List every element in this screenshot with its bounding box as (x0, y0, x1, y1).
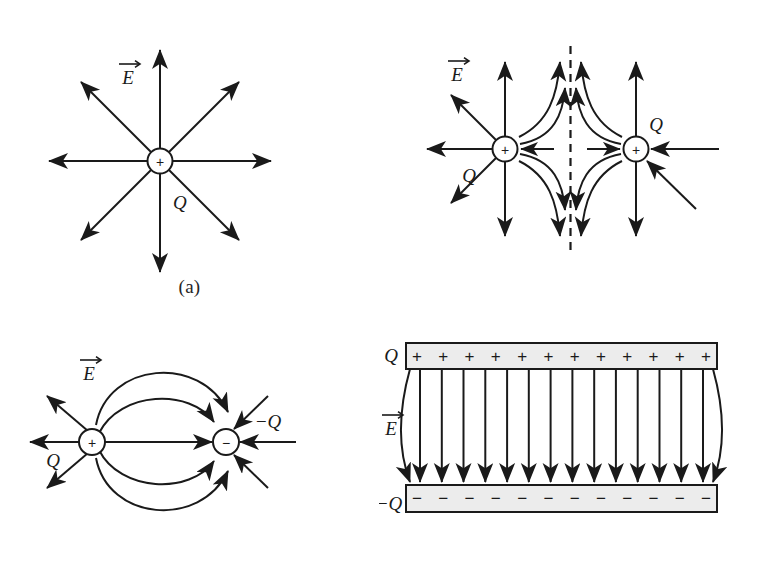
bottom-plate-minus-sign: − (649, 489, 659, 508)
bottom-plate-minus-sign: − (465, 489, 475, 508)
field-label-E-text: E (121, 67, 134, 88)
top-plate (406, 343, 717, 369)
left-positive-charge-marker: + (493, 137, 518, 162)
top-plate-plus-sign: + (438, 347, 448, 366)
field-label-E-text: E (82, 363, 95, 384)
negative-ray-downright (234, 455, 268, 488)
panel-b-canvas: + + E Q Q (379, 4, 758, 300)
field-ray-downleft (81, 161, 160, 240)
bottom-plate-minus-sign: − (491, 489, 501, 508)
charge-sign-plus-right: + (632, 142, 640, 158)
bottom-plate-minus-sign: − (596, 489, 606, 508)
bottom-plate-minus-sign: − (412, 489, 422, 508)
fringe-line-right (713, 369, 722, 482)
field-label-E-text: E (450, 64, 463, 85)
top-plate-plus-sign: + (543, 347, 553, 366)
curve-right-lower-inner (576, 154, 621, 210)
positive-charge-marker: + (79, 429, 105, 455)
panel-a-point-charge: + E Q (a) (0, 4, 379, 300)
right-charge-label-Q: Q (649, 114, 663, 135)
charge-sign-plus-left: + (501, 142, 509, 158)
top-plate-plus-sign: + (701, 347, 711, 366)
dipole-curve-lower-inner (99, 450, 214, 484)
field-label-E: E (448, 58, 469, 85)
bottom-plate-minus-sign: − (675, 489, 685, 508)
right-charge-ray-downright (647, 161, 696, 209)
panel-a-caption: (a) (0, 276, 379, 298)
panel-d-parallel-plates: ++++++++++++ −−−−−−−−−−−− Q −Q E (d) (379, 300, 758, 586)
panel-c-straight-rays (30, 396, 296, 488)
bottom-plate-minus-sign: − (622, 489, 632, 508)
uniform-field-lines (420, 369, 703, 482)
bottom-plate-minus-sign: − (570, 489, 580, 508)
positive-charge-label-Q: Q (46, 450, 60, 471)
positive-charge-marker: + (148, 149, 173, 174)
charge-sign-plus: + (88, 435, 96, 451)
panel-a-canvas: + E Q (0, 4, 379, 300)
top-plate-plus-sign: + (517, 347, 527, 366)
charge-sign-plus: + (156, 154, 164, 170)
top-plate-plus-sign: + (649, 347, 659, 366)
right-positive-charge-marker: + (624, 137, 649, 162)
dipole-curve-upper-inner (99, 399, 214, 433)
top-plate-plus-sign: + (675, 347, 685, 366)
positive-ray-upleft (47, 396, 88, 431)
field-ray-downright (160, 161, 239, 240)
negative-charge-marker: − (213, 429, 239, 455)
field-label-E: E (119, 61, 140, 88)
bottom-plate-label-Q: −Q (379, 493, 403, 514)
curve-right-upper-inner (576, 88, 621, 144)
panel-b-straight-rays (427, 62, 719, 236)
charge-sign-minus: − (222, 435, 230, 451)
field-ray-upleft (81, 82, 160, 161)
top-plate-plus-sign: + (622, 347, 632, 366)
field-ray-upright (160, 82, 239, 161)
top-plate-label-Q: Q (384, 345, 398, 366)
top-plate-plus-sign: + (491, 347, 501, 366)
negative-charge-label-Q: −Q (255, 411, 282, 432)
bottom-plate-minus-sign: − (701, 489, 711, 508)
bottom-plate-minus-sign: − (517, 489, 527, 508)
curve-left-upper-inner (520, 88, 565, 144)
top-plate-plus-sign: + (465, 347, 475, 366)
bottom-plate-minus-sign: − (543, 489, 553, 508)
curve-left-lower-inner (520, 154, 565, 210)
fringe-line-left (401, 369, 410, 482)
field-label-E: E (80, 357, 101, 384)
top-plate-plus-sign: + (412, 347, 422, 366)
top-plate-plus-sign: + (570, 347, 580, 366)
charge-label-Q: Q (173, 192, 187, 213)
left-charge-label-Q: Q (462, 165, 476, 186)
panel-c-canvas: + − E Q −Q (0, 300, 379, 586)
panel-d-canvas: ++++++++++++ −−−−−−−−−−−− Q −Q E (379, 300, 758, 586)
bottom-plate-minus-sign: − (438, 489, 448, 508)
field-label-E: E (382, 412, 403, 439)
bottom-plate (406, 485, 717, 512)
panel-b-two-like-charges: + + E Q Q (b) (379, 4, 758, 300)
field-label-E-text: E (384, 418, 397, 439)
panel-c-dipole: + − E Q −Q (c) (0, 300, 379, 586)
top-plate-plus-sign: + (596, 347, 606, 366)
figure-sheet: + E Q (a) (0, 0, 758, 586)
